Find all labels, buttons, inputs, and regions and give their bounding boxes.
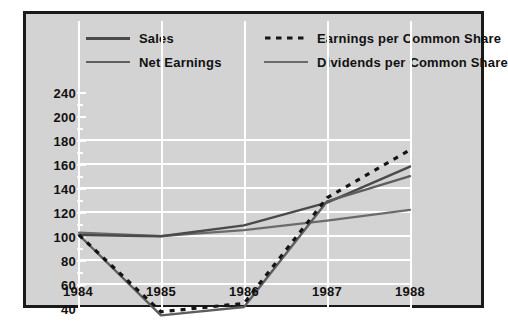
y-tick-label-140: 140 — [36, 183, 76, 196]
legend-item-earnings-per-common-share[interactable]: Earnings per Common Share — [264, 28, 501, 48]
y-axis-labels: 240 200 180 160 140 120 100 80 60 40 — [26, 14, 76, 311]
legend-swatch-dividends-per-common-share — [264, 56, 308, 68]
chart-figure: Sales Net Earnings Earnings per Common S… — [23, 11, 484, 308]
legend-label-dividends-per-common-share: Dividends per Common Share — [317, 55, 508, 70]
chart-legend: Sales Net Earnings Earnings per Common S… — [86, 28, 476, 74]
x-tick-label-1984: 1984 — [48, 284, 108, 299]
y-tick-label-240: 240 — [36, 87, 76, 100]
series-line-dividends-per-common-share — [79, 210, 410, 236]
legend-swatch-sales — [86, 32, 130, 44]
series-line-sales — [79, 167, 410, 237]
legend-item-net-earnings[interactable]: Net Earnings — [86, 52, 222, 72]
legend-swatch-earnings-per-common-share — [264, 32, 308, 44]
legend-label-net-earnings: Net Earnings — [139, 55, 222, 70]
x-tick-label-1988: 1988 — [380, 284, 440, 299]
y-tick-label-80: 80 — [36, 255, 76, 268]
x-tick-label-1986: 1986 — [214, 284, 274, 299]
chart-canvas: Sales Net Earnings Earnings per Common S… — [26, 14, 481, 305]
y-tick-label-200: 200 — [36, 111, 76, 124]
plot-area — [78, 83, 411, 277]
y-tick-label-120: 120 — [36, 207, 76, 220]
legend-swatch-net-earnings — [86, 56, 130, 68]
y-tick-label-160: 160 — [36, 159, 76, 172]
x-axis-labels: 1984 1985 1986 1987 1988 — [26, 284, 481, 306]
y-tick-label-100: 100 — [36, 231, 76, 244]
x-tick-label-1987: 1987 — [297, 284, 357, 299]
legend-label-sales: Sales — [139, 31, 174, 46]
y-tick-label-180: 180 — [36, 135, 76, 148]
legend-item-dividends-per-common-share[interactable]: Dividends per Common Share — [264, 52, 508, 72]
x-tick-label-1985: 1985 — [131, 284, 191, 299]
